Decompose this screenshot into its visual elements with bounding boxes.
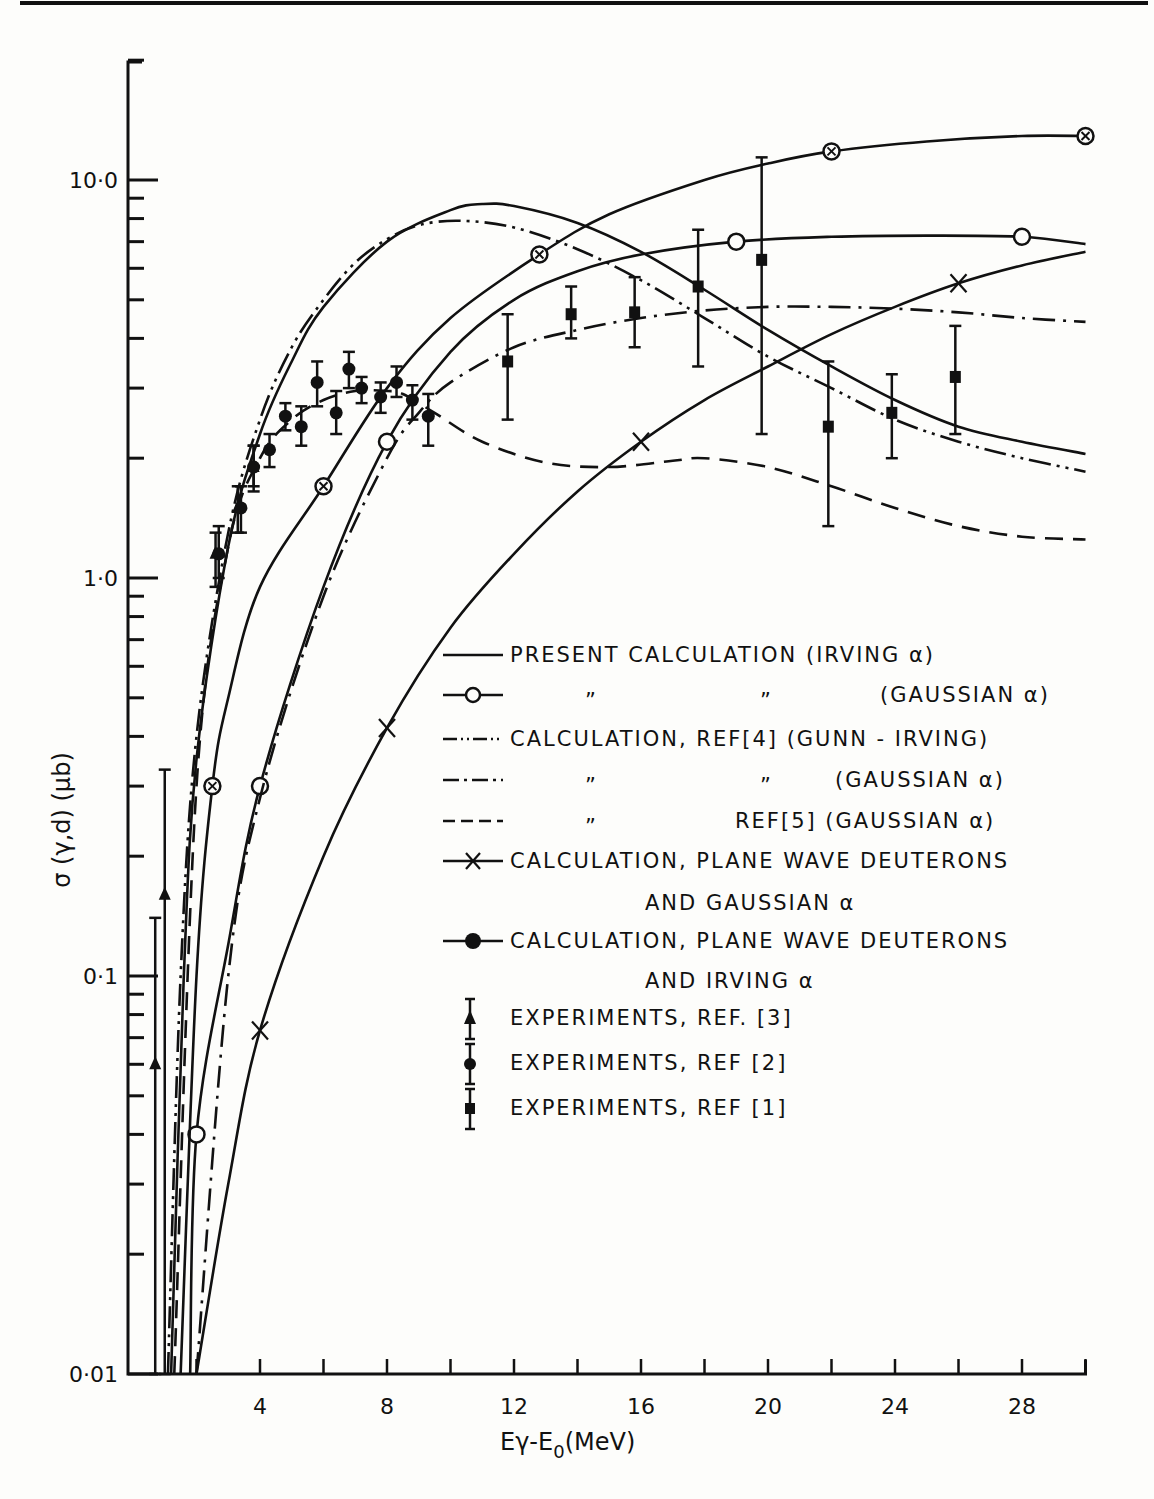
experiment-point bbox=[279, 403, 292, 430]
curve-4 bbox=[174, 390, 1085, 1374]
x-tick-label: 20 bbox=[754, 1394, 782, 1419]
legend-label: CALCULATION, REF[4] (GUNN - IRVING) bbox=[510, 727, 989, 751]
open-circle-icon bbox=[466, 688, 480, 702]
circle-marker bbox=[390, 376, 403, 389]
open-circle-marker bbox=[728, 234, 744, 250]
x-tick-label: 16 bbox=[627, 1394, 655, 1419]
experiment-point bbox=[295, 406, 308, 445]
experiment-point bbox=[149, 918, 161, 1374]
experimental-points bbox=[149, 157, 961, 1374]
x-axis-title-text: Eγ-E0(MeV) bbox=[500, 1428, 635, 1462]
circle-marker bbox=[406, 394, 419, 407]
y-tick-label: 0·01 bbox=[69, 1362, 118, 1387]
legend-label-line2: AND IRVING α bbox=[645, 969, 815, 993]
experiment-point bbox=[263, 434, 276, 467]
triangle-marker bbox=[159, 887, 171, 900]
legend-item: ””(GAUSSIAN α) bbox=[443, 768, 1005, 798]
experiment-point bbox=[355, 377, 368, 403]
square-marker bbox=[886, 407, 897, 419]
square-marker bbox=[693, 281, 704, 293]
legend-item: ””(GAUSSIAN α) bbox=[443, 683, 1050, 713]
square-marker bbox=[566, 308, 577, 320]
circle-marker bbox=[295, 420, 308, 433]
legend-label: (GAUSSIAN α) bbox=[835, 768, 1005, 792]
legend-ditto: ” bbox=[760, 689, 773, 713]
experiment-point bbox=[422, 394, 435, 446]
legend-item: EXPERIMENTS, REF. [3] bbox=[464, 999, 793, 1039]
curve-2 bbox=[168, 221, 1086, 1374]
circle-marker bbox=[374, 390, 387, 403]
experiment-point bbox=[692, 230, 704, 367]
curve-6 bbox=[181, 136, 1086, 1374]
experiment-point bbox=[342, 352, 355, 388]
square-marker bbox=[823, 421, 834, 433]
cross-section-chart: 0·010·11·010·0481216202428 σ (γ,d) (μb) … bbox=[0, 0, 1154, 1499]
circle-marker bbox=[279, 410, 292, 423]
circle-marker bbox=[311, 376, 324, 389]
experiment-point bbox=[502, 314, 514, 419]
y-axis-title: σ (γ,d) (μb) bbox=[48, 752, 76, 888]
legend-label: EXPERIMENTS, REF. [3] bbox=[510, 1006, 793, 1030]
experiment-point bbox=[822, 361, 834, 526]
square-icon bbox=[465, 1103, 475, 1114]
square-marker bbox=[950, 371, 961, 383]
x-tick-label: 8 bbox=[380, 1394, 394, 1419]
experiment-point bbox=[756, 157, 768, 434]
open-circle-marker bbox=[252, 778, 268, 794]
open-circle-marker bbox=[1014, 229, 1030, 245]
legend-label: PRESENT CALCULATION (IRVING α) bbox=[510, 643, 935, 667]
y-tick-label: 10·0 bbox=[69, 168, 118, 193]
y-tick-label: 0·1 bbox=[83, 964, 118, 989]
legend-ditto: ” bbox=[585, 774, 598, 798]
x-tick-label: 4 bbox=[253, 1394, 267, 1419]
legend-label: CALCULATION, PLANE WAVE DEUTERONS bbox=[510, 849, 1009, 873]
experiment-point bbox=[159, 770, 171, 1374]
y-tick-label: 1·0 bbox=[83, 566, 118, 591]
legend-item: ”REF[5] (GAUSSIAN α) bbox=[443, 809, 995, 839]
experiment-point bbox=[886, 374, 898, 458]
experiment-point bbox=[629, 277, 641, 347]
legend-item: PRESENT CALCULATION (IRVING α) bbox=[443, 643, 935, 667]
triangle-marker bbox=[149, 1056, 161, 1069]
circle-marker bbox=[342, 363, 355, 376]
axis-lines bbox=[128, 62, 1086, 1374]
x-tick-label: 12 bbox=[500, 1394, 528, 1419]
legend-label: EXPERIMENTS, REF [2] bbox=[510, 1051, 787, 1075]
legend-item: EXPERIMENTS, REF [1] bbox=[465, 1089, 787, 1129]
curve-1 bbox=[190, 236, 1085, 1374]
legend-item: EXPERIMENTS, REF [2] bbox=[464, 1044, 787, 1084]
x-axis-title: Eγ-E0(MeV) bbox=[500, 1428, 635, 1462]
square-marker bbox=[629, 306, 640, 318]
legend-label: CALCULATION, PLANE WAVE DEUTERONS bbox=[510, 929, 1009, 953]
triangle-icon bbox=[464, 1010, 476, 1024]
filled-circle-icon bbox=[465, 933, 481, 949]
x-tick-label: 28 bbox=[1008, 1394, 1036, 1419]
circle-marker bbox=[355, 382, 368, 395]
legend-label: EXPERIMENTS, REF [1] bbox=[510, 1096, 787, 1120]
circle-icon bbox=[464, 1058, 476, 1070]
legend-label: REF[5] (GAUSSIAN α) bbox=[735, 809, 995, 833]
legend-ditto: ” bbox=[585, 689, 598, 713]
circle-marker bbox=[422, 410, 435, 423]
legend-label: (GAUSSIAN α) bbox=[880, 683, 1050, 707]
experiment-point bbox=[374, 382, 387, 412]
circle-marker bbox=[247, 461, 260, 474]
legend: PRESENT CALCULATION (IRVING α)””(GAUSSIA… bbox=[443, 643, 1050, 1129]
legend-ditto: ” bbox=[585, 815, 598, 839]
square-marker bbox=[502, 355, 513, 367]
legend-item: CALCULATION, PLANE WAVE DEUTERONSAND GAU… bbox=[443, 849, 1009, 915]
experiment-point bbox=[949, 326, 961, 434]
legend-item: CALCULATION, PLANE WAVE DEUTERONSAND IRV… bbox=[443, 929, 1009, 993]
circle-marker bbox=[212, 547, 225, 560]
x-tick-label: 24 bbox=[881, 1394, 909, 1419]
circle-marker bbox=[263, 443, 276, 456]
square-marker bbox=[756, 254, 767, 266]
y-axis-title-text: σ (γ,d) (μb) bbox=[48, 752, 76, 888]
circle-marker bbox=[234, 501, 247, 514]
circle-marker bbox=[330, 406, 343, 419]
legend-label-line2: AND GAUSSIAN α bbox=[645, 891, 855, 915]
legend-ditto: ” bbox=[760, 774, 773, 798]
legend-item: CALCULATION, REF[4] (GUNN - IRVING) bbox=[443, 727, 989, 751]
